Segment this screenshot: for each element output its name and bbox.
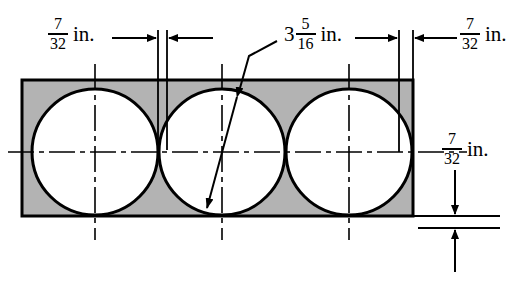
denominator-bottom-margin: 32 — [442, 150, 462, 167]
unit-left-margin: in. — [68, 24, 95, 45]
numerator-bottom-margin: 7 — [446, 131, 458, 148]
whole-number-hole-diameter: 3 — [284, 24, 296, 45]
dimension-bottom-margin — [404, 170, 500, 272]
fraction-bottom-margin: 7 32 — [442, 131, 462, 167]
technical-drawing-figure: 7 32 in. 3 5 16 in. 7 32 in. 7 32 in. — [0, 0, 517, 282]
unit-bottom-margin: in. — [462, 139, 489, 160]
numerator-right-margin: 7 — [464, 16, 476, 33]
fraction-hole-diameter: 5 16 — [296, 16, 316, 52]
fraction-left-margin: 7 32 — [48, 16, 68, 52]
unit-right-margin: in. — [480, 24, 507, 45]
dimension-label-bottom-margin: 7 32 in. — [442, 131, 489, 167]
denominator-right-margin: 32 — [460, 35, 480, 52]
unit-hole-diameter: in. — [316, 24, 343, 45]
numerator-left-margin: 7 — [52, 16, 64, 33]
dimension-label-hole-diameter: 3 5 16 in. — [284, 16, 342, 52]
dimension-label-right-margin: 7 32 in. — [460, 16, 507, 52]
numerator-hole-diameter: 5 — [300, 16, 312, 33]
denominator-left-margin: 32 — [48, 35, 68, 52]
dimension-label-left-margin: 7 32 in. — [48, 16, 95, 52]
denominator-hole-diameter: 16 — [296, 35, 316, 52]
fraction-right-margin: 7 32 — [460, 16, 480, 52]
